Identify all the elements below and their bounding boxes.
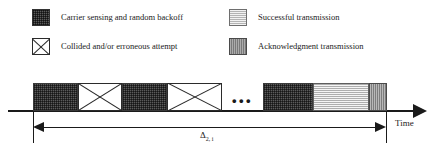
medium-gray-square-icon <box>229 38 247 55</box>
carrier-sensing-block-1 <box>33 83 78 111</box>
legend-item-collided-attempt: Collided and/or erroneous attempt <box>32 38 177 55</box>
successful-transmission-block <box>313 83 369 111</box>
duration-tick-end <box>386 111 387 143</box>
legend-item-carrier-sensing: Carrier sensing and random backoff <box>32 9 183 26</box>
duration-label: Δ2, i <box>200 131 213 142</box>
duration-arrowhead-right-icon <box>375 122 386 132</box>
legend-item-successful-transmission: Successful transmission <box>229 9 339 26</box>
segment-ellipsis: ••• <box>232 94 253 107</box>
legend-label-collided-attempt: Collided and/or erroneous attempt <box>61 42 177 51</box>
carrier-sensing-block-3 <box>263 83 313 111</box>
time-axis-label: Time <box>395 118 414 128</box>
collided-attempt-block-1 <box>78 83 122 111</box>
duration-arrowhead-left-icon <box>33 122 44 132</box>
carrier-sensing-block-2 <box>122 83 167 111</box>
duration-subscript: 2, i <box>206 136 214 142</box>
legend-label-successful-transmission: Successful transmission <box>258 13 339 22</box>
dark-speckled-square-icon <box>32 9 50 26</box>
timeline-diagram: Time ••• Δ2, i <box>0 70 439 152</box>
legend: Carrier sensing and random backoff Succe… <box>0 0 439 70</box>
collided-attempt-block-2 <box>167 83 222 111</box>
crossed-box-icon <box>32 38 50 55</box>
legend-item-acknowledgment: Acknowledgment transmission <box>229 38 364 55</box>
duration-measure-line <box>42 127 378 128</box>
timeline-segments: ••• <box>0 70 439 115</box>
light-gray-square-icon <box>229 9 247 26</box>
legend-label-carrier-sensing: Carrier sensing and random backoff <box>61 13 183 22</box>
acknowledgment-block <box>369 83 387 111</box>
legend-label-acknowledgment: Acknowledgment transmission <box>258 42 364 51</box>
